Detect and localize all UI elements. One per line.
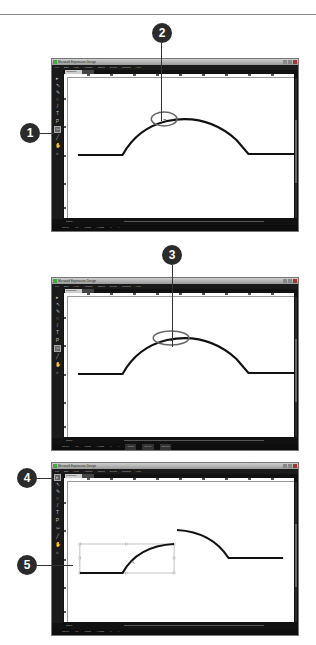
toolbox: ▸ ↖ ✎ ○ / T P ✂ ╱ ✋ ⌕ (52, 289, 63, 438)
direct-selection-tool-icon[interactable]: ↖ (55, 482, 60, 487)
menu-window[interactable]: Window (122, 284, 131, 289)
maximize-icon[interactable] (288, 279, 292, 283)
zoom-value[interactable]: 100% (66, 623, 72, 628)
selection-tool-icon[interactable]: ▸ (55, 76, 60, 81)
artboard-canvas[interactable]: ↖ (68, 482, 294, 622)
screenshot-1: Microsoft Expression Design File Edit Vi… (51, 58, 299, 232)
pan-tool-icon[interactable]: ✋ (55, 542, 60, 547)
shape-tool-icon[interactable]: ○ (55, 97, 60, 102)
pen-tool-icon[interactable]: ✎ (55, 489, 60, 494)
pan-tool-icon[interactable]: ✋ (55, 362, 60, 367)
menu-window[interactable]: Window (122, 469, 131, 474)
callout-2-leader (161, 43, 162, 121)
callout-1: 1 (20, 123, 40, 143)
line-tool-icon[interactable]: / (55, 104, 60, 109)
minimize-icon[interactable] (283, 279, 287, 283)
scissors-tool-icon[interactable]: ✂ (55, 127, 60, 132)
split-paths[interactable]: ↖ (68, 482, 294, 622)
shape-tool-icon[interactable]: ○ (55, 316, 60, 321)
callout-1-leader (40, 133, 54, 134)
menu-object[interactable]: Object (98, 284, 105, 289)
effects-button[interactable]: Effects (160, 444, 172, 450)
status-stroke: Stroke (62, 444, 69, 450)
status-y: Y (118, 629, 120, 635)
status-bar: Stroke Fill Width Height X Y (52, 629, 298, 635)
status-width: Width (84, 444, 90, 450)
callout-3-leader (172, 265, 173, 347)
text-tool-icon[interactable]: T (55, 111, 60, 116)
curve-path[interactable]: ✂ (68, 297, 294, 437)
zoom-tool-icon[interactable]: ⌕ (55, 370, 60, 375)
menu-select[interactable]: Select (110, 65, 117, 70)
maximize-icon[interactable] (288, 60, 292, 64)
status-fill: Fill (75, 629, 78, 635)
zoom-bar: 100% (64, 438, 294, 443)
menu-window[interactable]: Window (122, 65, 131, 70)
status-stroke: Stroke (62, 225, 69, 231)
menu-select[interactable]: Select (110, 284, 117, 289)
horizontal-scrollbar[interactable] (124, 221, 264, 222)
paint-tool-icon[interactable]: P (55, 518, 60, 523)
artboard-canvas[interactable]: ✂ (68, 78, 294, 218)
line-tool-icon[interactable]: / (55, 503, 60, 508)
pen-tool-icon[interactable]: ✎ (55, 90, 60, 95)
status-width: Width (84, 629, 90, 635)
status-height: Height (97, 629, 104, 635)
horizontal-scrollbar[interactable] (124, 440, 264, 441)
artboard-canvas[interactable]: ✂ (68, 297, 294, 437)
zoom-value[interactable]: 100% (66, 219, 72, 224)
vertical-scrollbar[interactable] (295, 297, 297, 437)
horizontal-scrollbar[interactable] (124, 625, 264, 626)
menu-select[interactable]: Select (110, 469, 117, 474)
minimize-icon[interactable] (283, 60, 287, 64)
brush-tool-icon[interactable]: ╱ (55, 135, 60, 140)
status-x: X (110, 444, 112, 450)
shape-tool-icon[interactable]: ○ (55, 496, 60, 501)
zoom-bar: 100% (64, 219, 294, 224)
maximize-icon[interactable] (288, 464, 292, 468)
close-icon[interactable] (293, 464, 297, 468)
stroke-button[interactable]: Stroke (142, 444, 153, 450)
pen-tool-icon[interactable]: ✎ (55, 309, 60, 314)
right-segment (177, 530, 283, 558)
minimize-icon[interactable] (283, 464, 287, 468)
menu-help[interactable]: Help (136, 284, 141, 289)
selection-tool-icon[interactable]: ▸ (55, 475, 60, 480)
callout-4: 4 (17, 468, 37, 488)
vertical-scrollbar[interactable] (295, 78, 297, 218)
selection-bounding-box (80, 544, 174, 573)
zoom-bar: 100% (64, 623, 294, 628)
status-stroke: Stroke (62, 629, 69, 635)
callout-5: 5 (17, 555, 37, 575)
status-x: X (110, 629, 112, 635)
menu-help[interactable]: Help (136, 65, 141, 70)
direct-selection-tool-icon[interactable]: ↖ (55, 302, 60, 307)
callout-3: 3 (162, 245, 182, 265)
selection-tool-icon[interactable]: ▸ (55, 295, 60, 300)
menu-object[interactable]: Object (98, 65, 105, 70)
pan-tool-icon[interactable]: ✋ (55, 143, 60, 148)
curve-path[interactable]: ✂ (68, 78, 294, 218)
brush-tool-icon[interactable]: ╱ (55, 354, 60, 359)
close-icon[interactable] (293, 279, 297, 283)
scissors-tool-icon[interactable]: ✂ (55, 526, 60, 531)
zoom-value[interactable]: 100% (66, 438, 72, 443)
status-height: Height (97, 225, 104, 231)
paint-tool-icon[interactable]: P (55, 338, 60, 343)
scissors-tool-icon[interactable]: ✂ (55, 346, 60, 351)
image-button[interactable]: Image (125, 444, 136, 450)
status-y: Y (118, 444, 120, 450)
paint-tool-icon[interactable]: P (55, 119, 60, 124)
vertical-scrollbar[interactable] (295, 482, 297, 622)
menu-help[interactable]: Help (136, 469, 141, 474)
brush-tool-icon[interactable]: ╱ (55, 534, 60, 539)
line-tool-icon[interactable]: / (55, 323, 60, 328)
text-tool-icon[interactable]: T (55, 330, 60, 335)
direct-selection-tool-icon[interactable]: ↖ (55, 83, 60, 88)
close-icon[interactable] (293, 60, 297, 64)
text-tool-icon[interactable]: T (55, 510, 60, 515)
menu-object[interactable]: Object (98, 469, 105, 474)
zoom-tool-icon[interactable]: ⌕ (55, 550, 60, 555)
screenshot-2: Microsoft Expression Design File Edit Vi… (51, 277, 299, 451)
zoom-tool-icon[interactable]: ⌕ (55, 151, 60, 156)
